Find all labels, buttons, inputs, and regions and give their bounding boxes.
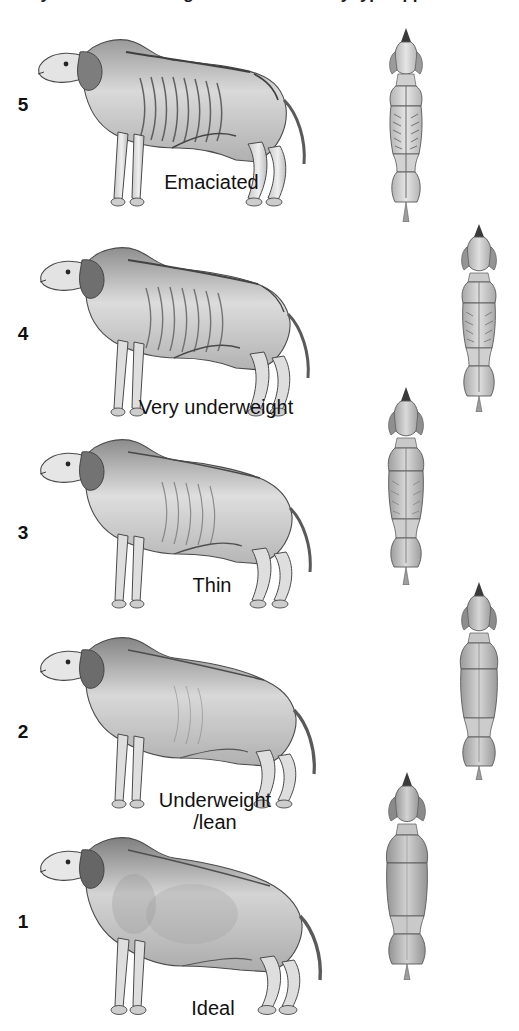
condition-label-emaciated: Emaciated xyxy=(124,172,299,194)
dorsal-dog-emaciated xyxy=(383,26,429,222)
condition-label-ideal: Ideal xyxy=(148,998,278,1020)
dorsal-dog-ideal xyxy=(380,770,434,980)
condition-label-very-underweight: Very underweight xyxy=(96,397,336,419)
dorsal-dog-thin xyxy=(382,385,430,585)
side-profile-dog-underweight-lean xyxy=(22,618,322,816)
dorsal-dog-very-underweight xyxy=(456,222,502,412)
dorsal-dog-underweight-lean xyxy=(454,580,504,780)
side-profile-dog-very-underweight xyxy=(22,228,318,424)
page-title: Body condition scoring chart - canine bo… xyxy=(8,0,513,4)
side-profile-dog-ideal xyxy=(22,818,324,1024)
body-condition-score-chart: Body condition scoring chart - canine bo… xyxy=(0,0,519,1031)
condition-label-thin: Thin xyxy=(152,575,272,597)
